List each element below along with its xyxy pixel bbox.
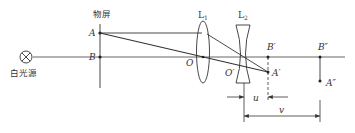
point-B: [98, 55, 101, 58]
lens-L2: [236, 25, 250, 83]
label-L2: L2: [238, 10, 248, 21]
label-B: B: [88, 52, 96, 62]
label-L1: L1: [198, 10, 208, 21]
point-B-dprime: [319, 56, 322, 59]
ray-center: [100, 33, 268, 72]
label-v: v: [279, 105, 284, 115]
label-B-dprime: B″: [317, 42, 329, 52]
light-source-icon: [20, 51, 32, 63]
label-O-prime: O′: [225, 68, 234, 78]
source-label: 白光源: [10, 68, 37, 78]
point-B-prime: [267, 56, 270, 59]
point-A-dprime: [319, 80, 322, 83]
ray-parallel-refracted: [207, 34, 268, 72]
label-A-dprime: A″: [325, 78, 336, 88]
label-O: O: [186, 58, 194, 68]
lens-L1: [197, 21, 210, 83]
optics-diagram: 白光源 物屏 A B L1 O L2 O′ B′ A′ B″ A″ u v: [0, 0, 355, 133]
label-A-prime: A′: [271, 68, 281, 78]
point-A-prime: [267, 71, 270, 74]
point-O: [202, 56, 205, 59]
label-u: u: [253, 93, 259, 103]
label-A: A: [88, 28, 96, 38]
screen-label: 物屏: [93, 9, 111, 19]
label-B-prime: B′: [266, 42, 276, 52]
